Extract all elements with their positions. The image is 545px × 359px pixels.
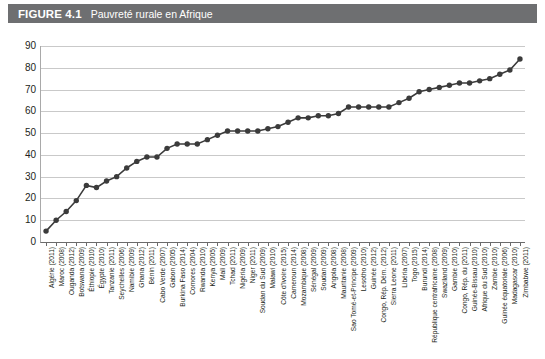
x-axis-tick-label: Gambie (2010): [452, 247, 459, 291]
data-point: [487, 76, 492, 81]
x-axis-tick: [288, 242, 289, 246]
x-axis-tick-label: Namibie (2009): [129, 247, 136, 292]
figure-title: Pauvreté rurale en Afrique: [91, 8, 213, 20]
x-axis-tick-label: Tchad (2011): [230, 247, 237, 285]
x-axis-tick: [46, 242, 47, 246]
x-axis-tick-label: Togo (2015): [412, 247, 419, 282]
data-point: [497, 72, 502, 77]
x-axis-tick: [66, 242, 67, 246]
data-point: [275, 124, 280, 129]
x-axis-tick-label: Guinée équatoriale (2006): [502, 247, 509, 324]
x-axis-tick: [117, 242, 118, 246]
x-axis-tick-label: Niger (2011): [250, 247, 257, 283]
data-point: [447, 83, 452, 88]
data-point: [94, 185, 99, 190]
y-axis-tick-label: 0: [30, 237, 36, 247]
x-axis-tick: [470, 242, 471, 246]
y-axis-tick-label: 50: [25, 128, 36, 138]
data-point: [346, 104, 351, 109]
x-axis-tick-label: Burkina Faso (2014): [180, 247, 187, 307]
x-axis-tick: [96, 242, 97, 246]
x-axis-tick-label: Sénégal (2009): [311, 247, 318, 292]
x-axis-tick: [328, 242, 329, 246]
x-axis-tick: [379, 242, 380, 246]
y-axis-tick-label: 30: [25, 172, 36, 182]
data-point: [437, 85, 442, 90]
data-point: [427, 87, 432, 92]
data-point: [225, 128, 230, 133]
data-point: [366, 104, 371, 109]
data-point: [185, 141, 190, 146]
figure-header-bar: FIGURE 4.1 Pauvreté rurale en Afrique: [8, 4, 537, 23]
y-axis-tick-label: 80: [25, 63, 36, 73]
data-point: [306, 115, 311, 120]
x-axis-tick-label: Mauritanie (2008): [341, 247, 348, 299]
y-axis-tick-label: 70: [25, 85, 36, 95]
x-axis-tick-label: Mozambique (2008): [301, 247, 308, 306]
y-axis-tick-label: 40: [25, 150, 36, 160]
x-axis-tick-label: Éthiopie (2010): [89, 247, 96, 292]
x-axis-tick-label: Cameroun (2014): [291, 247, 298, 299]
data-point: [467, 80, 472, 85]
x-axis-tick: [419, 242, 420, 246]
data-point: [43, 228, 48, 233]
x-axis-tick-label: Zambie (2010): [492, 247, 499, 290]
data-point: [154, 154, 159, 159]
x-axis-tick: [490, 242, 491, 246]
data-point: [265, 126, 270, 131]
chart-container: 0102030405060708090 Algérie (2011)Maroc …: [8, 27, 537, 352]
x-axis-tick-label: Égypte (2010): [99, 247, 106, 288]
x-axis-tick: [217, 242, 218, 246]
x-axis-tick: [107, 242, 108, 246]
data-point: [174, 141, 179, 146]
y-axis-tick-label: 20: [25, 193, 36, 203]
x-axis-tick: [520, 242, 521, 246]
x-axis-tick: [76, 242, 77, 246]
x-axis-tick-label: Soudan (2009): [321, 247, 328, 291]
data-point: [285, 120, 290, 125]
data-point: [477, 78, 482, 83]
x-axis-tick-label: Ouganda (2012): [69, 247, 76, 295]
data-point: [356, 104, 361, 109]
x-axis-tick-label: Angola (2008): [331, 247, 338, 288]
x-axis-tick: [278, 242, 279, 246]
x-axis-tick-label: Lesotho (2010): [361, 247, 368, 291]
x-axis-tick: [429, 242, 430, 246]
x-axis-tick-label: Soudan du Sud (2009): [260, 247, 267, 313]
x-axis-tick: [459, 242, 460, 246]
x-axis-tick: [409, 242, 410, 246]
x-axis-tick: [56, 242, 57, 246]
x-axis-tick-label: Bénin (2011): [149, 247, 156, 284]
x-axis-tick-label: Mali (2009): [220, 247, 227, 280]
x-axis-tick: [369, 242, 370, 246]
x-axis-tick: [500, 242, 501, 246]
data-point: [74, 198, 79, 203]
x-axis-tick-label: Libéria (2007): [402, 247, 409, 288]
data-point: [104, 178, 109, 183]
data-point: [336, 111, 341, 116]
data-point: [316, 113, 321, 118]
data-point: [195, 141, 200, 146]
data-point: [295, 115, 300, 120]
data-point: [457, 80, 462, 85]
x-axis-tick-label: République centrafricaine (2008): [432, 247, 439, 343]
data-point: [205, 137, 210, 142]
data-point: [53, 218, 58, 223]
x-axis-tick: [157, 242, 158, 246]
data-point: [517, 56, 522, 61]
series-poverty-rate: [41, 46, 525, 242]
x-axis-tick-label: Côte d'Ivoire (2015): [281, 247, 288, 305]
x-axis-tick: [207, 242, 208, 246]
x-axis-tick: [177, 242, 178, 246]
data-point: [144, 154, 149, 159]
y-axis-tick-label: 60: [25, 106, 36, 116]
x-axis-tick-label: Comores (2004): [190, 247, 197, 295]
x-axis-tick: [389, 242, 390, 246]
x-axis-tick: [338, 242, 339, 246]
x-axis-tick: [439, 242, 440, 246]
figure-number: FIGURE 4.1: [18, 8, 82, 20]
x-axis-tick-label: Zimbabwe (2011): [523, 247, 530, 298]
data-point: [235, 128, 240, 133]
x-axis-tick: [248, 242, 249, 246]
x-axis-tick: [318, 242, 319, 246]
